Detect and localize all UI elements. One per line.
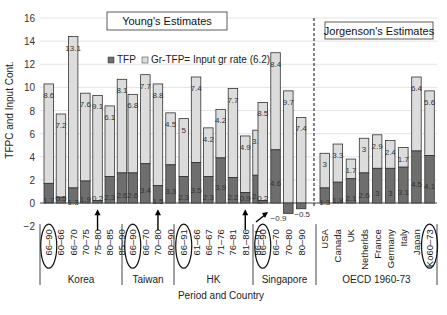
bar-singapore-80-90: 7.4−0.5 [294, 117, 310, 218]
input-value-label: 1.7 [398, 155, 410, 164]
input-value-label: 7.6 [80, 100, 92, 109]
bar-singapore-66-90: 8.50.2 [257, 102, 269, 203]
input-value-label: 7.7 [227, 96, 239, 105]
bar-segment-tfp [141, 164, 151, 203]
bar-segment-input [372, 135, 382, 169]
bar-oecd-UK: 1.72.1 [345, 159, 357, 203]
input-value-label: 6.8 [127, 101, 139, 110]
input-value-label: 6.1 [104, 113, 116, 122]
bar-taiwan-80-90: 4.53.3 [165, 113, 177, 203]
x-tick-label: 66–90 [257, 229, 268, 255]
tfp-value-label: 1.5 [152, 197, 164, 206]
tfp-value-label: 4.6 [270, 179, 282, 188]
bar-segment-tfp [399, 167, 409, 203]
bar-singapore-66-70: 8.44.6 [270, 53, 282, 203]
bar-korea-80-85: 6.12.3 [104, 106, 116, 203]
bar-oecd-Netherlds: 32.6 [358, 138, 370, 203]
bar-oecd-USA: 31.3 [319, 153, 331, 207]
input-value-label: 8.5 [257, 109, 269, 118]
y-tick-label: 4 [29, 152, 35, 163]
jorgenson-title-text: Jorgenson's Estimates [324, 25, 435, 37]
bar-segment-tfp [296, 203, 306, 209]
input-value-label: 5 [182, 126, 187, 135]
group-label: Korea [68, 274, 95, 285]
x-tick-label: 80–85 [104, 229, 115, 255]
tfp-value-label: 0.9 [240, 194, 252, 203]
x-tick-label: USA [319, 228, 330, 248]
x-axis: 66–9060–6666–7070–7575–8080–8585–9066–90… [40, 224, 437, 285]
tfp-value-label: 1.3 [68, 198, 80, 207]
input-value-label: 8.6 [43, 91, 55, 100]
x-tick-label: 81–86 [240, 229, 251, 255]
input-value-label: 9.1 [92, 102, 104, 111]
tfp-value-label: 4.1 [424, 182, 436, 191]
tfp-value-label: 3.3 [165, 187, 177, 196]
input-value-label: 4.5 [165, 120, 177, 129]
tfp-value-label: 1.7 [43, 196, 55, 205]
input-value-label: 3 [362, 145, 367, 154]
x-tick-label: 66–70 [140, 229, 151, 255]
legend-swatch-tfp [108, 57, 114, 63]
bar-oecd-Japan: 6.44.5 [411, 77, 423, 203]
bar-segment-input [68, 37, 78, 188]
x-tick-label: Italy [398, 229, 409, 247]
tfp-value-label: 3.9 [215, 183, 227, 192]
input-value-label: 13.1 [65, 44, 81, 53]
group-label: Singapore [262, 274, 308, 285]
x-tick-label: 71–76 [215, 229, 226, 255]
bar-segment-tfp [271, 150, 281, 203]
y-tick-label: 12 [24, 59, 36, 70]
bar-hk-81-86: 4.90.9 [240, 136, 252, 203]
tfp-value-label: −0.5 [294, 210, 310, 219]
bar-korea-60-66: 7.20.5 [55, 114, 67, 203]
y-tick-label: 0 [29, 198, 35, 209]
x-tick-label: 70–75 [80, 229, 91, 255]
x-tick-label: 70–80 [152, 229, 163, 255]
x-tick-label: 66–70 [68, 229, 79, 255]
arrow-head-icon [95, 209, 101, 215]
bar-taiwan-66-70: 7.73.4 [140, 75, 152, 203]
bar-korea-66-70: 13.11.3 [65, 37, 81, 208]
input-value-label: 1.7 [345, 166, 357, 175]
tfp-value-label: 2.1 [345, 194, 357, 203]
bar-segment-tfp [372, 168, 382, 203]
input-value-label: 4.2 [203, 135, 215, 144]
input-value-label: 6.4 [411, 84, 423, 93]
legend-label-tfp: TFP [117, 54, 136, 65]
bar-segment-tfp [216, 158, 226, 203]
y-tick-label: 8 [29, 106, 35, 117]
x-tick-label: 66–90 [43, 229, 54, 255]
y-tick-label: 16 [24, 13, 36, 24]
bar-oecd-Canada: 3.31.8 [332, 144, 344, 205]
bar-segment-input [320, 153, 330, 188]
x-tick-label: Netherlds [359, 229, 370, 270]
bar-segment-tfp [386, 168, 396, 203]
bar-oecd-Ko60-73: 5.64.1 [424, 91, 436, 203]
x-tick-label: 80–90 [296, 229, 307, 255]
tfp-value-label: 3 [388, 189, 393, 198]
group-label: OECD 1960-73 [342, 274, 411, 285]
x-tick-label: 75–80 [92, 229, 103, 255]
input-value-label: 8.4 [270, 60, 282, 69]
bar-oecd-France: 2.93 [372, 135, 384, 203]
tfp-value-label: 2.6 [358, 191, 370, 200]
input-value-label: 5.6 [424, 98, 436, 107]
x-axis-title: Period and Country [178, 290, 264, 301]
tfp-value-label: 1.9 [80, 195, 92, 204]
tfp-value-label: 4.5 [411, 180, 423, 189]
tfp-stacked-bar-chart: −20246810121416 8.61.77.20.513.11.37.61.… [0, 0, 447, 315]
bar-segment-tfp [284, 203, 294, 213]
input-value-label: 3 [323, 160, 328, 169]
bar-hk-66-67: 4.22.3 [203, 128, 215, 203]
bar-taiwan-70-80: 8.81.5 [152, 84, 164, 206]
tfp-value-label: 3.4 [140, 186, 152, 195]
bar-segment-tfp [166, 165, 176, 203]
tfp-value-label: 3.1 [398, 188, 410, 197]
group-label: HK [207, 274, 221, 285]
x-tick-label: 66–91 [178, 229, 189, 255]
input-value-label: 7.7 [140, 82, 152, 91]
bar-segment-tfp [191, 163, 201, 203]
tfp-value-label: 2.3 [178, 193, 190, 202]
tfp-value-label: 2.6 [127, 191, 139, 200]
bar-korea-70-75: 7.61.9 [80, 93, 92, 204]
